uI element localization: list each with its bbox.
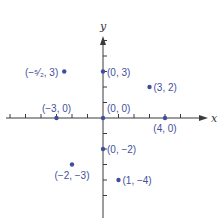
- data-point: [147, 85, 151, 89]
- point-label: (1, −4): [123, 175, 152, 186]
- data-point: [163, 116, 167, 120]
- y-axis-label: y: [99, 20, 107, 33]
- data-point: [101, 116, 105, 120]
- point-label: (0, −2): [107, 144, 136, 155]
- point-label: (−2, −3): [54, 170, 89, 181]
- point-label: (3, 2): [154, 82, 177, 93]
- data-point: [116, 178, 120, 182]
- coordinate-plane: x y (−⁵⁄₂, 3)(0, 3)(3, 2)(−3, 0)(0, 0)(4…: [0, 0, 219, 221]
- point-label: (−3, 0): [42, 103, 71, 114]
- point-label: (−⁵⁄₂, 3): [25, 67, 58, 78]
- point-label: (0, 0): [107, 103, 130, 114]
- data-point: [101, 69, 105, 73]
- data-point: [54, 116, 58, 120]
- point-label: (0, 3): [107, 67, 130, 78]
- data-points: (−⁵⁄₂, 3)(0, 3)(3, 2)(−3, 0)(0, 0)(4, 0)…: [25, 67, 177, 187]
- point-label: (4, 0): [153, 123, 176, 134]
- data-point: [70, 162, 74, 166]
- x-axis-arrowhead: [199, 115, 208, 121]
- data-point: [101, 147, 105, 151]
- x-axis-label: x: [211, 112, 218, 125]
- data-point: [62, 69, 66, 73]
